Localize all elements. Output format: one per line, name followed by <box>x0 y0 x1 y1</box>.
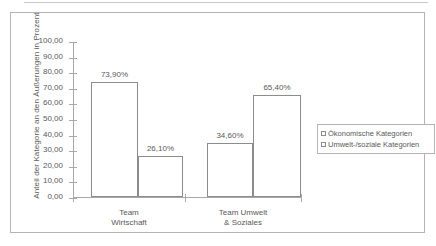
x-axis-category-label: TeamWirtschaft <box>69 208 189 228</box>
y-axis-tick: 30,00 <box>69 151 77 152</box>
y-axis-tick-label: 50,00 <box>23 114 63 123</box>
legend-swatch-icon <box>321 131 326 136</box>
legend-item-label: Ökonomische Kategorien <box>328 128 412 139</box>
y-axis-tick-label: 40,00 <box>23 130 63 139</box>
y-axis-tick: 100,00 <box>69 42 77 43</box>
legend-swatch-icon <box>321 142 326 147</box>
y-axis-tick: 10,00 <box>69 182 77 183</box>
y-axis-tick-label: 30,00 <box>23 145 63 154</box>
bar <box>91 82 138 197</box>
top-divider-rule <box>24 2 428 3</box>
bar-value-label: 65,40% <box>253 83 301 92</box>
y-axis-tick-label: 0,00 <box>23 192 63 201</box>
y-axis-tick-label: 80,00 <box>23 67 63 76</box>
y-axis-tick: 90,00 <box>69 58 77 59</box>
bar <box>138 156 183 197</box>
y-axis-tick-label: 70,00 <box>23 83 63 92</box>
y-axis-tick-label: 60,00 <box>23 98 63 107</box>
legend-item-label: Umwelt-/soziale Kategorien <box>328 139 419 150</box>
chart-frame: Anteil der Kategorie an den Äußerungen i… <box>10 12 425 233</box>
y-axis-tick-label: 90,00 <box>23 52 63 61</box>
y-axis-tick: 70,00 <box>69 89 77 90</box>
legend-item[interactable]: Ökonomische Kategorien <box>321 128 431 139</box>
x-axis-tick <box>185 194 186 202</box>
x-axis-category-label-line: & Soziales <box>183 218 303 228</box>
y-axis-tick-label: 10,00 <box>23 176 63 185</box>
x-axis-category-label-line: Team Umwelt <box>183 208 303 218</box>
y-axis-tick: 60,00 <box>69 104 77 105</box>
x-axis-category-label: Team Umwelt& Soziales <box>183 208 303 228</box>
x-axis-tick <box>301 194 302 202</box>
x-axis-line <box>73 197 301 198</box>
chart-legend: Ökonomische KategorienUmwelt-/soziale Ka… <box>317 124 435 154</box>
y-axis-tick-label: 100,00 <box>23 36 63 45</box>
bar <box>207 143 253 197</box>
bar-value-label: 73,90% <box>91 70 138 79</box>
bar-value-label: 26,10% <box>138 144 183 153</box>
y-axis-tick: 80,00 <box>69 73 77 74</box>
bar <box>253 95 301 197</box>
y-axis-tick: 20,00 <box>69 167 77 168</box>
plot-area: 0,0010,0020,0030,0040,0050,0060,0070,008… <box>73 42 301 198</box>
bar-value-label: 34,60% <box>207 131 253 140</box>
x-axis-category-label-line: Wirtschaft <box>69 218 189 228</box>
y-axis-tick-label: 20,00 <box>23 161 63 170</box>
y-axis-tick: 50,00 <box>69 120 77 121</box>
legend-item[interactable]: Umwelt-/soziale Kategorien <box>321 139 431 150</box>
x-axis-tick <box>73 194 74 202</box>
y-axis-tick: 40,00 <box>69 136 77 137</box>
x-axis-category-label-line: Team <box>69 208 189 218</box>
